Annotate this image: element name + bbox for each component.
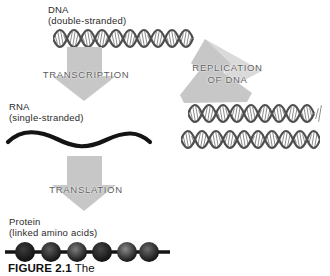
replicated-dna-helix-1 xyxy=(188,101,325,126)
rna-strand xyxy=(5,126,155,152)
figure-caption-number: FIGURE 2.1 xyxy=(8,262,72,274)
rna-label: RNA (single-stranded) xyxy=(9,101,84,123)
protein-label-subtitle: (linked amino acids) xyxy=(9,227,97,238)
replication-label-line1: REPLICATION xyxy=(185,62,270,73)
figure-caption: FIGURE 2.1 The xyxy=(8,262,95,274)
rna-label-subtitle: (single-stranded) xyxy=(9,112,84,123)
replicated-dna-helix-2 xyxy=(181,127,320,152)
translation-label: TRANSLATION xyxy=(31,184,141,195)
protein-label: Protein (linked amino acids) xyxy=(9,216,97,238)
dna-label-title: DNA xyxy=(48,4,126,15)
rna-label-title: RNA xyxy=(9,101,84,112)
protein-label-title: Protein xyxy=(9,216,97,227)
replication-label-line2: OF DNA xyxy=(185,74,270,85)
central-dogma-diagram: DNA (double-stranded) TRANSCRIPTION REPL… xyxy=(0,0,330,276)
dna-label: DNA (double-stranded) xyxy=(48,4,126,26)
dna-label-subtitle: (double-stranded) xyxy=(48,15,126,26)
transcription-label: TRANSCRIPTION xyxy=(31,69,141,80)
figure-caption-text: The xyxy=(75,262,95,274)
